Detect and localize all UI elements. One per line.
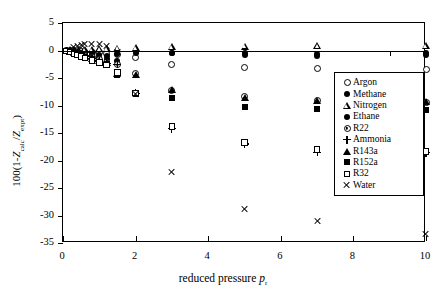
x-tick	[208, 236, 209, 241]
filled-triangle-icon	[341, 146, 353, 157]
legend-item-r22[interactable]: R22	[341, 123, 419, 134]
open-square-icon	[341, 168, 353, 179]
x-tick	[63, 236, 64, 241]
y-tick-label: -35	[14, 237, 54, 247]
data-point-r32	[114, 69, 121, 76]
data-point-nitrogen	[422, 42, 430, 49]
data-point-r143a	[241, 94, 249, 101]
y-tick	[58, 243, 63, 244]
legend-item-r143a[interactable]: R143a	[341, 145, 419, 156]
x-tick-label: 2	[115, 250, 155, 261]
data-point-r32	[169, 123, 176, 130]
y-title-suffix: )	[10, 115, 22, 119]
legend-item-ethane[interactable]: Ethane	[341, 111, 419, 122]
filled-circle-icon	[341, 89, 353, 100]
y-tick-label: 0	[14, 45, 54, 55]
legend-item-label: R22	[353, 123, 369, 134]
legend-item-label: R143a	[353, 146, 378, 157]
y-tick-label: -5	[14, 72, 54, 82]
data-point-water	[113, 48, 121, 56]
data-point-r32	[82, 55, 89, 62]
x-tick-label: 8	[332, 250, 372, 261]
x-axis-title: reduced pressure pr	[0, 272, 446, 287]
y-tick	[58, 216, 63, 217]
data-point-r152a	[314, 106, 320, 112]
y-tick-label: -15	[14, 127, 54, 137]
legend-item-ammonia[interactable]: Ammonia	[341, 134, 419, 145]
legend-item-label: Ethane	[353, 111, 379, 122]
x-tick-label: 4	[187, 250, 227, 261]
cross-icon	[341, 180, 353, 191]
open-circle-icon	[341, 77, 353, 88]
data-point-r152a	[169, 95, 175, 101]
data-point-water	[313, 217, 321, 225]
data-point-ethane	[423, 52, 429, 58]
legend-item-label: R152a	[353, 157, 378, 168]
data-point-argon	[314, 65, 321, 72]
data-point-r32	[96, 59, 103, 66]
x-tick	[353, 236, 354, 241]
data-point-r143a	[168, 86, 176, 93]
x-tick	[281, 236, 282, 241]
data-point-water	[103, 42, 111, 50]
data-point-r32	[89, 57, 96, 64]
y-tick	[58, 161, 63, 162]
y-tick-label: -10	[14, 100, 54, 110]
y-title-sub1: calc	[18, 140, 26, 151]
data-point-argon	[241, 64, 248, 71]
legend-item-nitrogen[interactable]: Nitrogen	[341, 100, 419, 111]
dot-circle-icon	[341, 123, 353, 134]
filled-circle-icon	[341, 111, 353, 122]
filled-square-icon	[341, 157, 353, 168]
y-tick	[58, 188, 63, 189]
data-point-r143a	[313, 97, 321, 104]
data-point-water	[422, 230, 430, 238]
y-tick	[58, 106, 63, 107]
legend-item-r32[interactable]: R32	[341, 168, 419, 179]
chart-legend: ArgonMethaneNitrogenEthaneR22AmmoniaR143…	[334, 72, 424, 196]
legend-item-label: Nitrogen	[353, 100, 387, 111]
y-tick-label: -20	[14, 155, 54, 165]
legend-item-methane[interactable]: Methane	[341, 88, 419, 99]
data-point-r32	[241, 139, 248, 146]
data-point-r152a	[242, 104, 248, 110]
y-axis-title: 100(1-Zcalc/Zexpt)	[10, 115, 25, 187]
legend-item-argon[interactable]: Argon	[341, 77, 419, 88]
x-title-main: reduced pressure	[179, 272, 257, 284]
y-tick-label: -25	[14, 182, 54, 192]
legend-item-label: Water	[353, 180, 375, 191]
x-tick-label: 6	[260, 250, 300, 261]
data-point-nitrogen	[241, 43, 249, 50]
data-point-argon	[168, 61, 175, 68]
data-point-water	[168, 168, 176, 176]
data-point-ammonia	[113, 60, 121, 68]
open-triangle-icon	[341, 100, 353, 111]
plus-icon	[341, 134, 353, 145]
y-tick	[58, 23, 63, 24]
data-point-r32	[314, 146, 321, 153]
data-point-ethane	[242, 52, 248, 58]
y-tick	[58, 133, 63, 134]
x-title-sub: r	[265, 279, 267, 287]
scatter-chart-figure: 100(1-Zcalc/Zexpt) reduced pressure pr 5…	[0, 0, 446, 301]
legend-item-water[interactable]: Water	[341, 180, 419, 191]
y-tick-label: 5	[14, 17, 54, 27]
legend-item-r152a[interactable]: R152a	[341, 157, 419, 168]
y-tick	[58, 78, 63, 79]
x-tick-label: 0	[42, 250, 82, 261]
x-tick	[136, 236, 137, 241]
data-point-r143a	[132, 71, 140, 78]
y-tick-label: -30	[14, 210, 54, 220]
data-point-r32	[103, 62, 110, 69]
legend-item-label: Argon	[353, 77, 377, 88]
zero-baseline	[63, 51, 424, 52]
legend-item-label: R32	[353, 168, 369, 179]
legend-item-label: Ammonia	[353, 134, 391, 145]
legend-item-label: Methane	[353, 89, 386, 100]
data-point-ethane	[314, 53, 320, 59]
data-point-water	[132, 90, 140, 98]
data-point-water	[241, 205, 249, 213]
x-tick-label: 10	[405, 250, 445, 261]
data-point-nitrogen	[313, 42, 321, 49]
